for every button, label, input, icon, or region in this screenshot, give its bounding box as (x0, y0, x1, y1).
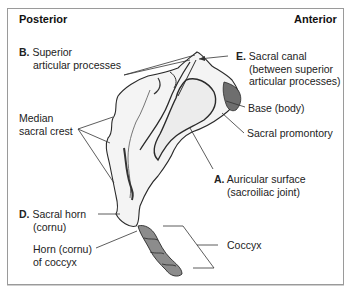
sacrum-bone (106, 52, 240, 226)
label-text: Sacral canal (249, 50, 307, 62)
coccyx-outline (138, 225, 182, 276)
label-text: Auricular surface (227, 173, 306, 185)
label-text: Horn (cornu) (33, 243, 92, 255)
label-letter: D. (19, 208, 30, 220)
label-text: Median (19, 112, 53, 124)
label-coccyx-horn: Horn (cornu) of coccyx (33, 243, 92, 268)
label-text: (between superior (236, 63, 333, 75)
label-letter: E. (236, 50, 246, 62)
label-text: Superior (32, 46, 72, 58)
label-letter: B. (19, 46, 30, 58)
coccyx-bone (138, 225, 182, 276)
label-sacral-canal: E. Sacral canal (between superior articu… (236, 50, 341, 88)
label-coccyx: Coccyx (227, 239, 261, 252)
posterior-heading: Posterior (19, 13, 67, 25)
label-text: (sacroiliac joint) (214, 186, 300, 198)
label-text: (cornu) (19, 221, 66, 233)
label-letter: A. (214, 173, 225, 185)
label-promontory: Sacral promontory (247, 127, 333, 140)
anterior-heading: Anterior (294, 13, 337, 25)
label-auricular: A. Auricular surface (sacroiliac joint) (214, 173, 306, 198)
leader-median-crest-1 (78, 117, 113, 129)
label-text: sacral crest (19, 125, 73, 137)
leader-auricular (190, 128, 213, 169)
label-sacral-horn: D. Sacral horn (cornu) (19, 208, 86, 233)
label-text: of coccyx (33, 256, 77, 268)
label-superior-articular: B. Superior articular processes (19, 46, 121, 71)
label-median-crest: Median sacral crest (19, 112, 73, 137)
label-text: articular processes) (236, 75, 341, 87)
label-text: Sacral horn (32, 208, 86, 220)
label-text: articular processes (19, 59, 121, 71)
leader-coccyx-horn (96, 231, 137, 248)
label-base: Base (body) (248, 102, 305, 115)
leader-promontory (222, 113, 244, 133)
